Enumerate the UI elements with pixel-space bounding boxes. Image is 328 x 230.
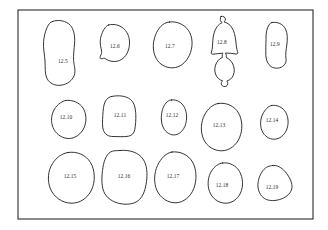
figure-label-12-9: 12.9 bbox=[270, 41, 280, 47]
figure-label-12-5: 12.5 bbox=[58, 58, 68, 64]
figure-label-12-6: 12.6 bbox=[110, 43, 120, 49]
figure-label-12-10: 12.10 bbox=[60, 114, 73, 120]
figure-label-12-8: 12.8 bbox=[217, 39, 227, 45]
figure-label-12-17: 12.17 bbox=[167, 173, 180, 179]
figure-label-12-14: 12.14 bbox=[266, 117, 279, 123]
figure-label-12-18: 12.18 bbox=[216, 182, 229, 188]
figure-label-12-15: 12.15 bbox=[64, 173, 77, 179]
figure-label-12-13: 12.13 bbox=[213, 122, 226, 128]
figure-label-12-16: 12.16 bbox=[118, 173, 131, 179]
figure-label-12-11: 12.11 bbox=[114, 112, 127, 118]
figure-label-12-12: 12.12 bbox=[166, 112, 179, 118]
figure-label-12-19: 12.19 bbox=[266, 184, 279, 190]
figure-label-12-7: 12.7 bbox=[165, 43, 175, 49]
plate-canvas: 12.512.612.712.812.912.1012.1112.1212.13… bbox=[0, 0, 328, 230]
figure-plate: 12.512.612.712.812.912.1012.1112.1212.13… bbox=[0, 0, 328, 230]
